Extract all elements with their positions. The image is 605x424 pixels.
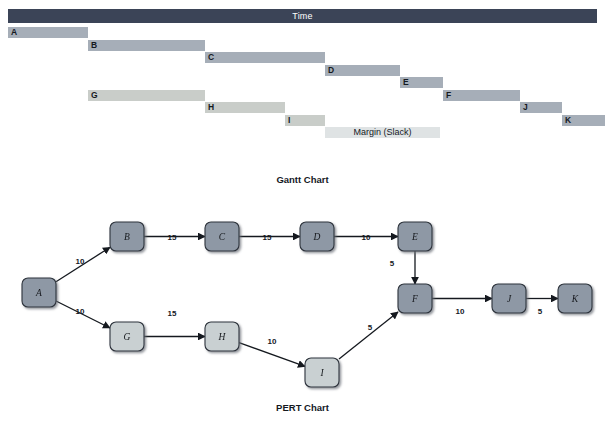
pert-diagram-canvas: ABCDEFJKGHI 1015151051015105105 bbox=[0, 196, 605, 402]
gantt-bar-g: G bbox=[88, 90, 205, 101]
pert-node-label: K bbox=[571, 294, 579, 304]
pert-edge-weight-a-g: 10 bbox=[76, 307, 85, 316]
gantt-bar-i: I bbox=[285, 115, 325, 126]
pert-node-c: C bbox=[205, 222, 239, 251]
pert-edge-weight-g-h: 15 bbox=[168, 309, 177, 318]
pert-node-i: I bbox=[305, 358, 339, 387]
pert-edge-weight-i-f: 5 bbox=[368, 323, 373, 332]
pert-node-label: E bbox=[411, 232, 418, 242]
pert-edge-weight-f-j: 10 bbox=[456, 307, 465, 316]
gantt-bar-label: A bbox=[11, 27, 17, 37]
gantt-chart: Time ABCDEGFHJIKMargin (Slack) bbox=[0, 0, 605, 150]
pert-node-group: ABCDEFJKGHI bbox=[22, 222, 592, 387]
gantt-bar-label: E bbox=[403, 77, 409, 87]
gantt-bar-label: C bbox=[208, 52, 214, 62]
pert-node-h: H bbox=[205, 322, 239, 351]
gantt-bar-label: B bbox=[91, 40, 97, 50]
pert-node-label: D bbox=[313, 232, 321, 242]
pert-node-label: G bbox=[124, 332, 131, 342]
pert-edge-weight-b-c: 15 bbox=[168, 233, 177, 242]
gantt-bar-k: K bbox=[562, 115, 605, 126]
pert-edge-weight-d-e: 10 bbox=[362, 233, 371, 242]
pert-node-label: F bbox=[411, 294, 418, 304]
pert-node-f: F bbox=[398, 284, 432, 313]
gantt-bar-label: J bbox=[523, 102, 528, 112]
pert-node-j: J bbox=[492, 284, 526, 313]
pert-node-a: A bbox=[22, 278, 56, 307]
gantt-bar-a: A bbox=[8, 27, 88, 38]
gantt-bar-label: G bbox=[91, 90, 98, 100]
pert-node-k: K bbox=[558, 284, 592, 313]
pert-edge-weight-c-d: 15 bbox=[263, 233, 272, 242]
pert-node-g: G bbox=[110, 322, 144, 351]
gantt-bar-f: F bbox=[443, 90, 520, 101]
gantt-bar-label: D bbox=[328, 65, 334, 75]
pert-node-label: H bbox=[218, 332, 227, 342]
pert-node-b: B bbox=[110, 222, 144, 251]
gantt-bar-label: K bbox=[565, 115, 571, 125]
gantt-bar-j: J bbox=[520, 102, 562, 113]
pert-chart: ABCDEFJKGHI 1015151051015105105 bbox=[0, 196, 605, 402]
pert-node-label: A bbox=[35, 288, 42, 298]
pert-node-label: B bbox=[124, 232, 130, 242]
gantt-bar-label: I bbox=[288, 115, 290, 125]
pert-node-d: D bbox=[300, 222, 334, 251]
gantt-bar-d: D bbox=[325, 65, 400, 76]
pert-node-e: E bbox=[398, 222, 432, 251]
gantt-bar-e: E bbox=[400, 77, 443, 88]
gantt-chart-caption: Gantt Chart bbox=[0, 174, 605, 185]
gantt-bar-h: H bbox=[205, 102, 285, 113]
gantt-time-header: Time bbox=[8, 9, 597, 23]
gantt-bar-label: H bbox=[208, 102, 214, 112]
pert-edge-weight-h-i: 10 bbox=[268, 337, 277, 346]
pert-edge-i-to-f bbox=[339, 312, 398, 359]
pert-edge-weight-a-b: 10 bbox=[76, 257, 85, 266]
gantt-bar-b: B bbox=[88, 40, 205, 51]
gantt-slack-bar: Margin (Slack) bbox=[325, 127, 440, 138]
pert-edge-weight-e-f: 5 bbox=[390, 259, 395, 268]
pert-edge-h-to-i bbox=[239, 343, 305, 367]
gantt-bar-c: C bbox=[205, 52, 325, 63]
gantt-bar-label: F bbox=[446, 90, 451, 100]
pert-node-label: C bbox=[219, 232, 226, 242]
pert-edge-weight-j-k: 5 bbox=[538, 307, 543, 316]
pert-chart-caption: PERT Chart bbox=[0, 402, 605, 413]
